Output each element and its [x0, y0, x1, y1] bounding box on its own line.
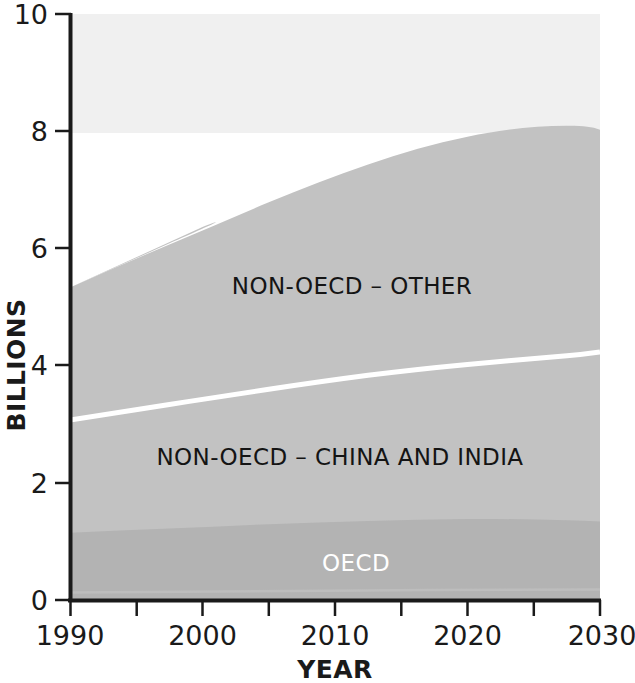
- x-tick-label-2030: 2030: [568, 620, 635, 651]
- chart-canvas: 10 8 6 4 2 0 1990 2000 2010 2020 2030 BI…: [0, 0, 635, 683]
- x-tick-label-2000: 2000: [168, 620, 237, 651]
- y-axis-title: BILLIONS: [2, 299, 31, 432]
- y-tick-label-4: 4: [31, 350, 48, 381]
- y-tick-label-10: 10: [14, 0, 48, 30]
- series-label-non-oecd-china-india: NON-OECD – CHINA AND INDIA: [157, 444, 524, 470]
- population-projection-area-chart: 10 8 6 4 2 0 1990 2000 2010 2020 2030 BI…: [0, 0, 635, 683]
- x-tick-label-2010: 2010: [301, 620, 370, 651]
- y-tick-label-8: 8: [31, 116, 48, 147]
- y-tick-label-2: 2: [31, 468, 48, 499]
- x-tick-label-2020: 2020: [433, 620, 502, 651]
- series-label-oecd: OECD: [322, 550, 390, 576]
- y-tick-label-6: 6: [31, 233, 48, 264]
- x-tick-label-1990: 1990: [36, 620, 105, 651]
- background-band-8-10: [70, 14, 600, 133]
- x-axis-title: YEAR: [296, 655, 372, 683]
- stacked-areas-group: [70, 126, 600, 600]
- series-label-non-oecd-other: NON-OECD – OTHER: [232, 273, 472, 299]
- y-tick-label-0: 0: [31, 585, 48, 616]
